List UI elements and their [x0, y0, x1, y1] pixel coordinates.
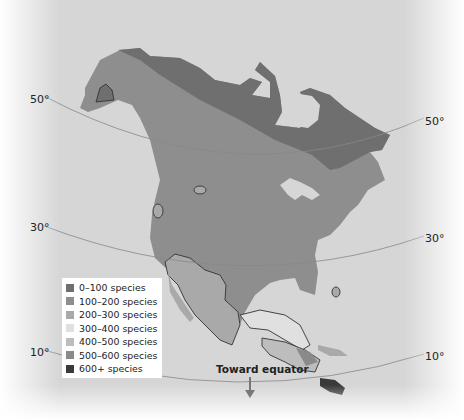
legend-item: 400–500 species — [66, 335, 162, 349]
legend-item: 300–400 species — [66, 322, 162, 336]
latitude-label-right-10: 10° — [425, 350, 445, 363]
legend-label: 400–500 species — [79, 336, 157, 347]
equator-label: Toward equator — [216, 363, 309, 375]
legend-swatch — [66, 297, 74, 305]
legend-swatch — [66, 311, 74, 319]
legend-swatch — [66, 324, 74, 332]
latitude-label-left-10: 10° — [30, 346, 50, 359]
legend-label: 500–600 species — [79, 350, 157, 361]
latitude-label-left-30: 30° — [30, 221, 50, 234]
region-florida-pocket — [332, 287, 340, 297]
region-west-pocket-1 — [194, 186, 206, 194]
latitude-label-left-50: 50° — [30, 93, 50, 106]
legend-label: 200–300 species — [79, 309, 157, 320]
legend-item: 600+ species — [66, 362, 162, 376]
region-west-pocket-2 — [153, 204, 163, 218]
legend-item: 100–200 species — [66, 295, 162, 309]
legend-label: 300–400 species — [79, 323, 157, 334]
legend-label: 600+ species — [79, 363, 143, 374]
legend-label: 100–200 species — [79, 296, 157, 307]
latitude-label-right-50: 50° — [425, 115, 445, 128]
legend-swatch — [66, 338, 74, 346]
legend-swatch — [66, 365, 74, 373]
species-richness-map: 50° 30° 10° 50° 30° 10° Toward equator 0… — [0, 0, 464, 420]
legend-label: 0–100 species — [79, 282, 146, 293]
legend-item: 500–600 species — [66, 349, 162, 363]
legend-swatch — [66, 284, 74, 292]
latitude-label-right-30: 30° — [425, 232, 445, 245]
legend-item: 0–100 species — [66, 281, 162, 295]
legend-swatch — [66, 351, 74, 359]
legend: 0–100 species 100–200 species 200–300 sp… — [62, 278, 162, 378]
legend-item: 200–300 species — [66, 308, 162, 322]
